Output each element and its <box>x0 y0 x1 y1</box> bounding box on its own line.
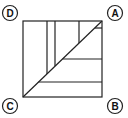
label-b: B <box>108 99 123 114</box>
label-a-text: A <box>111 8 118 19</box>
label-b-text: B <box>111 101 118 112</box>
label-d-text: D <box>6 8 13 19</box>
label-d: D <box>3 6 18 21</box>
label-c: C <box>3 99 18 114</box>
label-a: A <box>108 6 123 21</box>
label-c-text: C <box>6 101 13 112</box>
square-diagram: D A C B <box>0 0 128 118</box>
